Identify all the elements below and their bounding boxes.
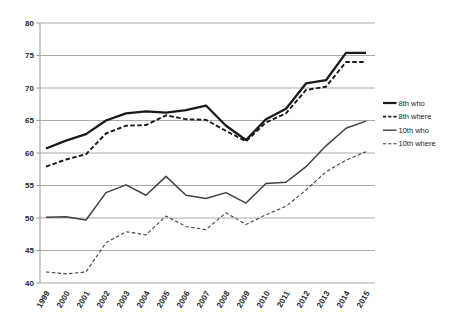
x-tick-label: 2002	[95, 289, 112, 309]
x-tick-label: 2001	[75, 289, 92, 309]
legend-label: 10th where	[399, 139, 436, 148]
legend-label: 8th where	[399, 112, 432, 121]
x-tick-label: 1999	[35, 289, 52, 309]
x-tick-label: 2015	[355, 289, 372, 309]
y-tick-label: 80	[25, 19, 34, 28]
x-tick-label: 2005	[155, 289, 172, 309]
x-axis-tick-labels: 1999200020012002200320042005200620072008…	[35, 289, 372, 309]
y-tick-label: 75	[25, 51, 34, 60]
y-tick-label: 50	[25, 214, 34, 223]
series-line-8th-who	[46, 53, 366, 149]
y-tick-label: 45	[25, 246, 34, 255]
legend-label: 10th who	[399, 126, 429, 135]
x-tick-label: 2004	[135, 289, 152, 309]
x-tick-label: 2009	[235, 289, 252, 309]
y-tick-label: 40	[25, 279, 34, 288]
x-tick-label: 2003	[115, 289, 132, 309]
series-line-10th-who	[46, 121, 366, 220]
line-chart: 404550556065707580 199920002001200220032…	[0, 0, 455, 322]
x-tick-label: 2011	[275, 289, 292, 309]
series-line-10th-where	[46, 152, 366, 274]
chart-container: 404550556065707580 199920002001200220032…	[0, 0, 455, 322]
x-tick-label: 2012	[295, 289, 312, 309]
y-tick-label: 65	[25, 116, 34, 125]
y-tick-label: 60	[25, 149, 34, 158]
x-tick-label: 2014	[335, 289, 352, 309]
x-tick-label: 2007	[195, 289, 212, 309]
y-tick-label: 70	[25, 84, 34, 93]
x-tick-label: 2010	[255, 289, 272, 309]
legend-label: 8th who	[399, 99, 425, 108]
x-tick-label: 2006	[175, 289, 192, 309]
legend: 8th who8th where10th who10th where	[383, 99, 436, 149]
x-tick-label: 2000	[55, 289, 72, 309]
series-line-8th-where	[46, 62, 366, 167]
x-tick-label: 2013	[315, 289, 332, 309]
gridlines	[40, 23, 375, 283]
y-tick-label: 55	[25, 181, 34, 190]
x-tick-label: 2008	[215, 289, 232, 309]
axes	[37, 23, 41, 283]
series-lines	[46, 53, 366, 274]
y-axis-tick-labels: 404550556065707580	[25, 19, 34, 288]
